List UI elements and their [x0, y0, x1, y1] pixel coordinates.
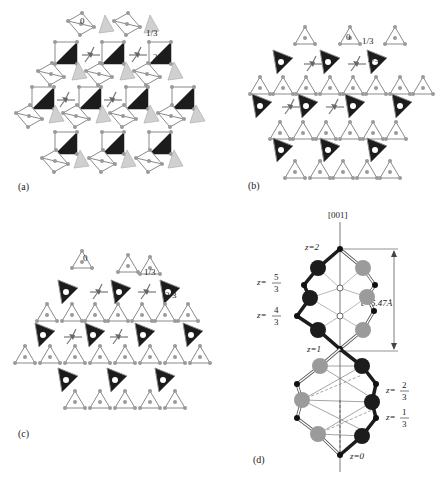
z-label-0: z=0: [349, 451, 365, 461]
panel-label-d: (d): [253, 454, 265, 466]
panel-c: 0 1/3 2/3 (c): [13, 249, 212, 440]
level-label-0: 0: [346, 32, 351, 42]
panel-label-c: (c): [18, 428, 29, 440]
svg-text:3: 3: [274, 317, 279, 327]
axis-label-001: [001]: [328, 210, 348, 220]
panel-b: 0 1/3 2/3 (b): [248, 25, 435, 192]
svg-text:3: 3: [402, 419, 407, 429]
z-label-4-3: z= 4 3: [256, 305, 281, 327]
level-label-1-3: 1/3: [362, 36, 374, 46]
svg-text:2: 2: [402, 380, 407, 390]
svg-text:5: 5: [274, 272, 279, 282]
panel-a: 0 1/3 2/3 (a): [14, 11, 205, 193]
svg-text:z=: z=: [256, 310, 267, 320]
level-label-2-3: 2/3: [153, 52, 165, 62]
panel-label-a: (a): [18, 181, 29, 193]
level-label-2-3: 2/3: [165, 290, 177, 300]
panel-label-b: (b): [248, 180, 260, 192]
level-label-0: 0: [80, 16, 85, 26]
svg-text:1: 1: [402, 407, 407, 417]
level-label-1-3: 1/3: [144, 267, 156, 277]
svg-text:z=: z=: [385, 385, 396, 395]
z-label-2: z=2: [304, 242, 320, 252]
svg-text:3: 3: [274, 284, 279, 294]
z-label-2-3: z= 2 3: [385, 380, 409, 402]
level-label-1-3: 1/3: [146, 28, 158, 38]
svg-text:z=: z=: [385, 412, 396, 422]
z-label-5-3: z= 5 3: [256, 272, 281, 294]
level-label-2-3: 2/3: [368, 54, 380, 64]
panel-d: [001] c=5.47Å: [253, 210, 409, 472]
svg-text:z=: z=: [256, 277, 267, 287]
z-label-1-3: z= 1 3: [385, 407, 409, 429]
crystal-structure-figure: 0 1/3 2/3 (a): [0, 0, 443, 477]
svg-text:4: 4: [274, 305, 279, 315]
svg-text:3: 3: [402, 392, 407, 402]
level-label-0: 0: [83, 253, 88, 263]
z-label-1: z=1: [306, 344, 321, 354]
